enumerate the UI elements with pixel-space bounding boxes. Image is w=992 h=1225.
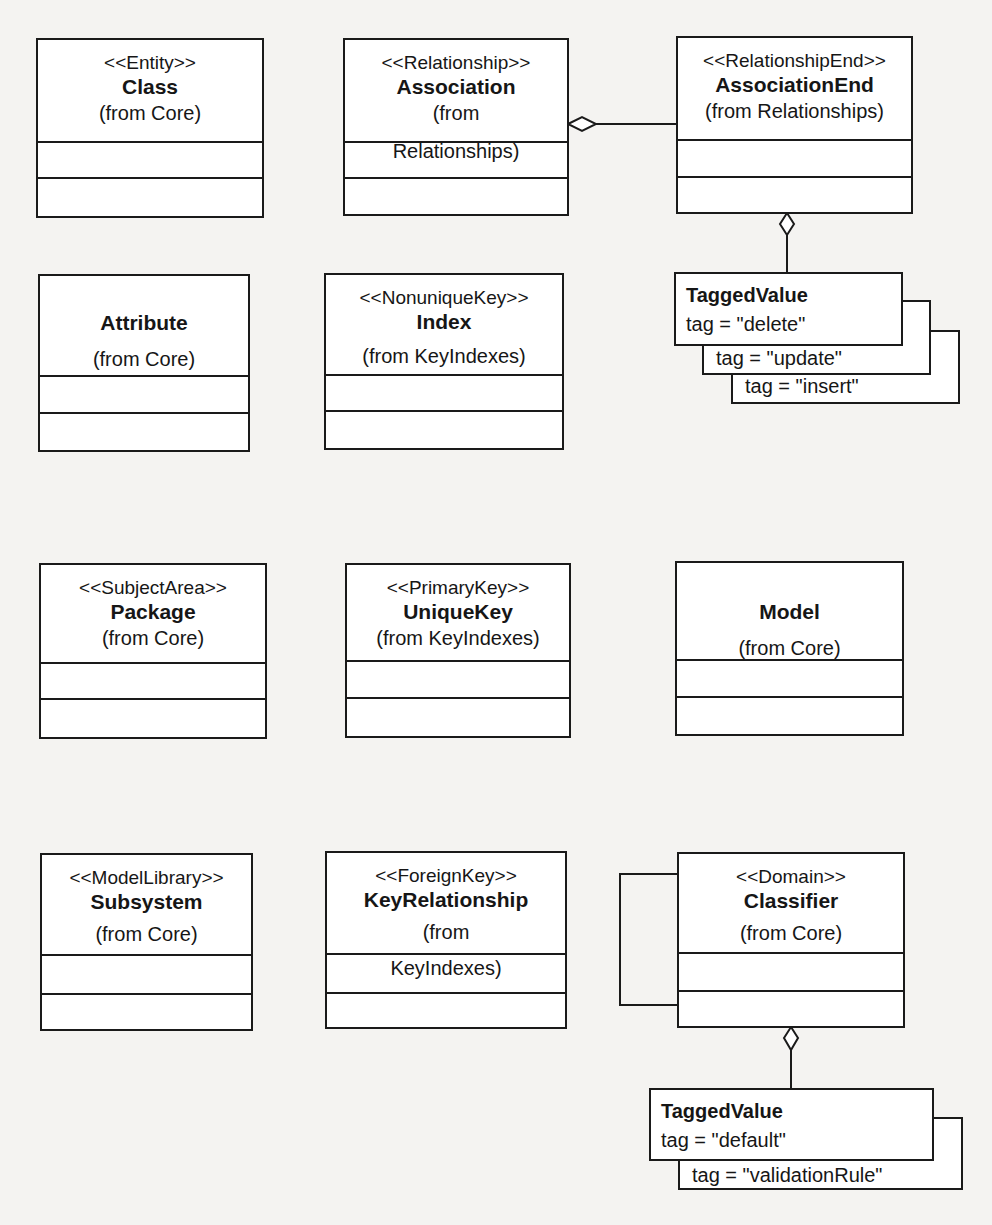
stereotype-label: <<RelationshipEnd>> [703,50,886,72]
package-origin: (from Core) [95,921,197,947]
operations-divider [345,177,567,179]
class-name: KeyRelationship [364,887,529,913]
operations-divider [38,177,262,179]
class-name: Model [759,599,820,625]
stereotype-label: <<Entity>> [104,52,196,74]
operations-divider [41,698,265,700]
package-origin: (from Core) [740,920,842,946]
package-origin: (from Relationships) [705,98,884,124]
attributes-divider [40,375,248,377]
class-box-index[interactable]: <<NonuniqueKey>> Index (from KeyIndexes) [324,273,564,450]
attributes-divider [677,659,902,661]
package-origin: (from Core) [738,635,840,661]
class-name: Class [122,74,178,100]
operations-divider [327,992,565,994]
taggedvalue-title: TaggedValue [661,1098,783,1124]
stereotype-label: <<Domain>> [736,866,846,888]
operations-divider [679,990,903,992]
class-box-attribute[interactable]: Attribute (from Core) [38,274,250,452]
operations-divider [347,697,569,699]
class-name: Classifier [744,888,839,914]
attributes-divider [326,374,562,376]
operations-divider [677,696,902,698]
aggregation-diamond-icon [784,1027,798,1050]
package-origin: (from KeyIndexes) [376,625,539,651]
class-name: Package [110,599,195,625]
stereotype-label: <<SubjectArea>> [79,577,227,599]
class-box-uniquekey[interactable]: <<PrimaryKey>> UniqueKey (from KeyIndexe… [345,563,571,738]
class-name: Association [396,74,515,100]
class-box-associationend[interactable]: <<RelationshipEnd>> AssociationEnd (from… [676,36,913,214]
attributes-divider [345,141,567,143]
operations-divider [326,410,562,412]
package-origin: (from [423,919,470,945]
class-box-subsystem[interactable]: <<ModelLibrary>> Subsystem (from Core) [40,853,253,1031]
classifier-to-taggedvalue-connector [784,1027,798,1088]
class-box-package[interactable]: <<SubjectArea>> Package (from Core) [39,563,267,739]
attributes-divider [42,954,251,956]
tag-default: tag = "default" [661,1128,786,1152]
taggedvalue-default-box[interactable]: TaggedValue tag = "default" [649,1088,934,1161]
attributes-divider [678,139,911,141]
class-name: Index [417,309,472,335]
stereotype-label: <<NonuniqueKey>> [359,287,528,309]
attributes-divider [347,660,569,662]
operations-divider [40,412,248,414]
attributes-divider [41,662,265,664]
package-origin: (from Core) [99,100,201,126]
stereotype-label: <<Relationship>> [382,52,531,74]
class-box-model[interactable]: Model (from Core) [675,561,904,736]
classifier-self-association [620,874,677,1005]
class-box-classifier[interactable]: <<Domain>> Classifier (from Core) [677,852,905,1028]
tag-insert: tag = "insert" [745,374,859,398]
package-origin: (from Core) [102,625,204,651]
stereotype-label: <<ForeignKey>> [375,865,517,887]
tag-delete: tag = "delete" [686,312,805,336]
package-origin-cont: KeyIndexes) [390,955,501,981]
attributes-divider [327,953,565,955]
class-name: AssociationEnd [715,72,874,98]
attributes-divider [38,141,262,143]
package-origin: (from [433,100,480,126]
attributes-divider [679,952,903,954]
class-box-association[interactable]: <<Relationship>> Association (from Relat… [343,38,569,216]
stereotype-label: <<ModelLibrary>> [69,867,223,889]
class-box-class[interactable]: <<Entity>> Class (from Core) [36,38,264,218]
package-origin: (from KeyIndexes) [362,343,525,369]
association-to-associationend-connector [568,117,676,131]
package-origin: (from Core) [93,346,195,372]
stereotype-label: <<PrimaryKey>> [387,577,530,599]
class-name: Attribute [100,310,188,336]
class-name: Subsystem [90,889,202,915]
tag-validationrule: tag = "validationRule" [692,1163,882,1187]
aggregation-diamond-icon [780,213,794,235]
class-name: UniqueKey [403,599,513,625]
tag-update: tag = "update" [716,346,842,370]
operations-divider [42,993,251,995]
taggedvalue-delete-box[interactable]: TaggedValue tag = "delete" [674,272,903,346]
associationend-to-taggedvalue-connector [780,213,794,272]
class-box-keyrelationship[interactable]: <<ForeignKey>> KeyRelationship (from Key… [325,851,567,1029]
taggedvalue-title: TaggedValue [686,282,808,308]
operations-divider [678,176,911,178]
aggregation-diamond-icon [568,117,596,131]
